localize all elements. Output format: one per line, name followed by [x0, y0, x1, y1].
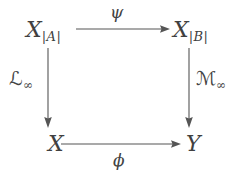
arrow-label-script-l-subscript: ∞: [23, 78, 33, 92]
arrow-label-script-m-subscript: ∞: [216, 78, 226, 92]
arrow-label-phi: ϕ: [113, 152, 125, 169]
node-top-right: X|B|: [173, 19, 209, 43]
arrow-left-vertical: [41, 48, 55, 128]
node-top-left-subscript: |A|: [42, 29, 62, 44]
node-bottom-right-base: Y: [186, 131, 201, 156]
node-top-left-base: X: [26, 17, 42, 42]
arrow-right-vertical: [182, 48, 196, 128]
arrow-label-script-m: ℳ∞: [196, 69, 226, 91]
arrow-label-psi: ψ: [110, 4, 123, 21]
arrow-label-script-m-base: ℳ: [196, 67, 216, 89]
node-top-right-base: X: [173, 17, 189, 42]
commutative-diagram: X|A| X|B| X Y ψ ϕ ℒ∞ ℳ∞: [0, 0, 246, 177]
node-bottom-right: Y: [186, 133, 201, 157]
arrow-bottom-horizontal: [61, 137, 181, 151]
node-top-left: X|A|: [26, 19, 61, 43]
arrow-label-script-l-base: ℒ: [9, 67, 23, 89]
arrow-label-script-l: ℒ∞: [9, 69, 33, 91]
arrow-top-horizontal: [76, 22, 170, 36]
node-top-right-subscript: |B|: [189, 29, 209, 44]
